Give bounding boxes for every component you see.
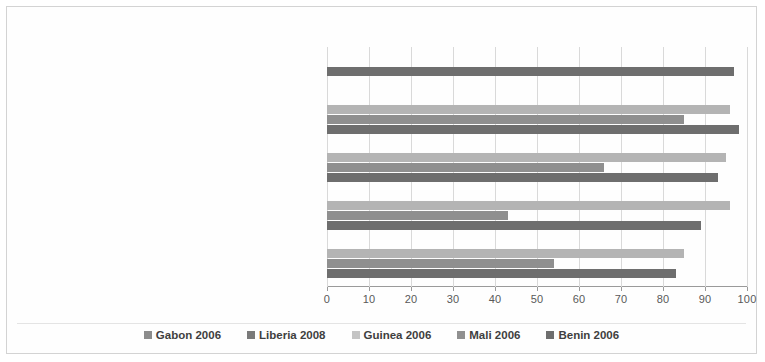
x-axis-tick: [621, 287, 622, 291]
legend-item[interactable]: Gabon 2006: [144, 329, 221, 341]
legend-swatch-icon: [352, 331, 360, 339]
bar: [327, 125, 739, 134]
bar: [327, 211, 508, 220]
legend-label: Gabon 2006: [156, 329, 221, 341]
legend-label: Benin 2006: [558, 329, 619, 341]
legend-item[interactable]: Guinea 2006: [352, 329, 432, 341]
chart-legend: Gabon 2006Liberia 2008Guinea 2006Mali 20…: [7, 329, 756, 341]
x-axis-tick-label: 10: [354, 293, 384, 305]
x-axis-tick-label: 60: [564, 293, 594, 305]
legend-item[interactable]: Mali 2006: [457, 329, 520, 341]
x-axis-tick-label: 40: [480, 293, 510, 305]
bar: [327, 173, 718, 182]
gridline: [705, 47, 706, 287]
legend-item[interactable]: Benin 2006: [546, 329, 619, 341]
bar: [327, 259, 554, 268]
legend-divider: [17, 323, 746, 324]
x-axis-tick: [369, 287, 370, 291]
chart-frame: 0102030405060708090100A good meal on hol…: [6, 6, 757, 354]
x-axis-tick-label: 0: [312, 293, 342, 305]
x-axis-tick-label: 100: [732, 293, 762, 305]
x-axis-tick: [537, 287, 538, 291]
bar: [327, 153, 726, 162]
x-axis-tick: [411, 287, 412, 291]
gridline: [747, 47, 748, 287]
x-axis-tick-label: 90: [690, 293, 720, 305]
x-axis-tick-label: 50: [522, 293, 552, 305]
bar: [327, 67, 734, 76]
legend-swatch-icon: [546, 331, 554, 339]
legend-item[interactable]: Liberia 2008: [247, 329, 325, 341]
bar: [327, 221, 701, 230]
x-axis-tick-label: 20: [396, 293, 426, 305]
legend-label: Guinea 2006: [364, 329, 432, 341]
x-axis-tick: [327, 287, 328, 291]
x-axis-tick: [663, 287, 664, 291]
legend-label: Mali 2006: [469, 329, 520, 341]
plot-area: 0102030405060708090100A good meal on hol…: [327, 47, 747, 287]
bar: [327, 249, 684, 258]
legend-label: Liberia 2008: [259, 329, 325, 341]
bar: [327, 269, 676, 278]
x-axis-tick: [747, 287, 748, 291]
x-axis-tick: [579, 287, 580, 291]
x-axis-tick: [705, 287, 706, 291]
x-axis-tick-label: 80: [648, 293, 678, 305]
x-axis-tick: [495, 287, 496, 291]
bar: [327, 163, 604, 172]
legend-swatch-icon: [457, 331, 465, 339]
x-axis-tick: [453, 287, 454, 291]
bar: [327, 115, 684, 124]
bar: [327, 105, 730, 114]
legend-swatch-icon: [144, 331, 152, 339]
x-axis-tick-label: 70: [606, 293, 636, 305]
legend-swatch-icon: [247, 331, 255, 339]
x-axis-tick-label: 30: [438, 293, 468, 305]
bar: [327, 201, 730, 210]
